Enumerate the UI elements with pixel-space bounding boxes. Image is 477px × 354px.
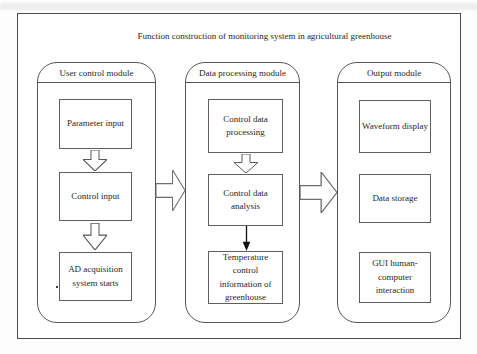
module-data-processing: Data processing module Control data proc… [185,62,300,323]
figure-canvas: Function construction of monitoring syst… [0,0,477,354]
node-control-data-analysis: Control data analysis [208,174,283,226]
module-user-control-header: User control module [38,63,155,83]
ink-speck [56,286,58,288]
node-gui-interaction: GUI human-computer interaction [359,252,431,303]
node-control-data-processing: Control data processing [208,99,283,153]
node-ad-acquisition: AD acquisition system starts [59,252,132,301]
hollow-right-arrow-icon [156,170,185,211]
module-output: Output module Waveform display Data stor… [337,62,451,323]
hollow-down-arrow-icon [83,150,107,171]
module-output-header: Output module [338,63,450,83]
hollow-down-arrow-icon [234,154,258,173]
node-temperature-info: Temperature control information of green… [208,251,283,304]
scan-artifact-band [0,3,477,10]
node-parameter-input: Parameter input [59,99,132,149]
module-user-control: User control module Parameter input Cont… [37,62,156,323]
solid-down-arrow-icon [241,226,252,251]
hollow-down-arrow-icon [83,223,107,250]
node-data-storage: Data storage [359,174,431,223]
node-control-input: Control input [59,172,132,221]
module-data-processing-header: Data processing module [186,63,299,83]
hollow-right-arrow-icon [300,172,337,213]
diagram-title: Function construction of monitoring syst… [72,30,457,43]
node-waveform-display: Waveform display [359,100,431,153]
